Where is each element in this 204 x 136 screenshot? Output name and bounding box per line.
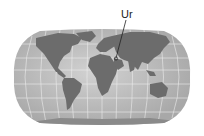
ur-label: Ur [121,9,133,20]
antarctica [30,118,176,130]
world-map-graphic [0,0,204,136]
world-map: Ur [0,0,204,136]
